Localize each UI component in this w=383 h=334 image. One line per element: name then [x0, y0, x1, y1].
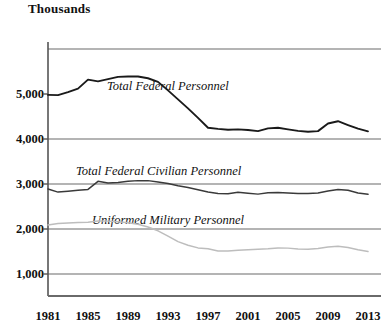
chart-plot-area	[0, 0, 383, 334]
chart-root: Thousands 5,000 4,000 3,000 2,000 1,000 …	[0, 0, 383, 334]
